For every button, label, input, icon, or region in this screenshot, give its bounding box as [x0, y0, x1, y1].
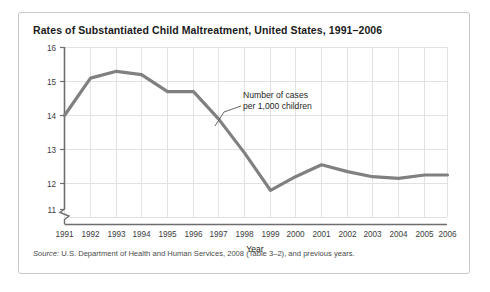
x-tick-label: 1991 [55, 230, 74, 239]
x-tick-label: 2000 [286, 230, 305, 239]
y-tick-label: 15 [47, 78, 57, 87]
x-tick-label: 1995 [158, 230, 177, 239]
y-tick-label: 12 [47, 180, 57, 189]
y-axis-tick-labels: 16 15 14 13 12 11 [47, 44, 57, 215]
y-tick-label: 14 [47, 112, 57, 121]
x-tick-label: 1993 [107, 230, 126, 239]
plot-area: 16 15 14 13 12 11 1991 1992 1993 1994 19… [19, 13, 471, 275]
x-tick-label: 2005 [415, 230, 434, 239]
y-tick-label: 16 [47, 44, 57, 53]
x-axis-tick-labels: 1991 1992 1993 1994 1995 1996 1997 1998 … [55, 230, 457, 239]
x-tick-label: 2006 [438, 230, 457, 239]
x-tick-label: 1994 [132, 230, 151, 239]
y-tick-label: 11 [48, 206, 57, 215]
x-tick-label: 1996 [184, 230, 203, 239]
annotation-line-2: per 1,000 children [243, 101, 312, 111]
source-text: U.S. Department of Health and Human Serv… [59, 249, 354, 258]
y-tick-label: 13 [47, 146, 57, 155]
x-tick-label: 2003 [363, 230, 382, 239]
x-tick-label: 1997 [209, 230, 228, 239]
figure-panel: Rates of Substantiated Child Maltreatmen… [18, 12, 470, 274]
x-tick-label: 2004 [389, 230, 408, 239]
x-tick-label: 2001 [312, 230, 331, 239]
x-tick-label: 1998 [235, 230, 254, 239]
source-label: Source: [33, 249, 59, 258]
x-tick-label: 1992 [81, 230, 100, 239]
source-note: Source: U.S. Department of Health and Hu… [33, 249, 355, 258]
x-tick-label: 1999 [261, 230, 280, 239]
annotation-line-1: Number of cases [243, 90, 308, 100]
line-chart-svg: 16 15 14 13 12 11 1991 1992 1993 1994 19… [19, 13, 471, 275]
x-tick-label: 2002 [338, 230, 357, 239]
